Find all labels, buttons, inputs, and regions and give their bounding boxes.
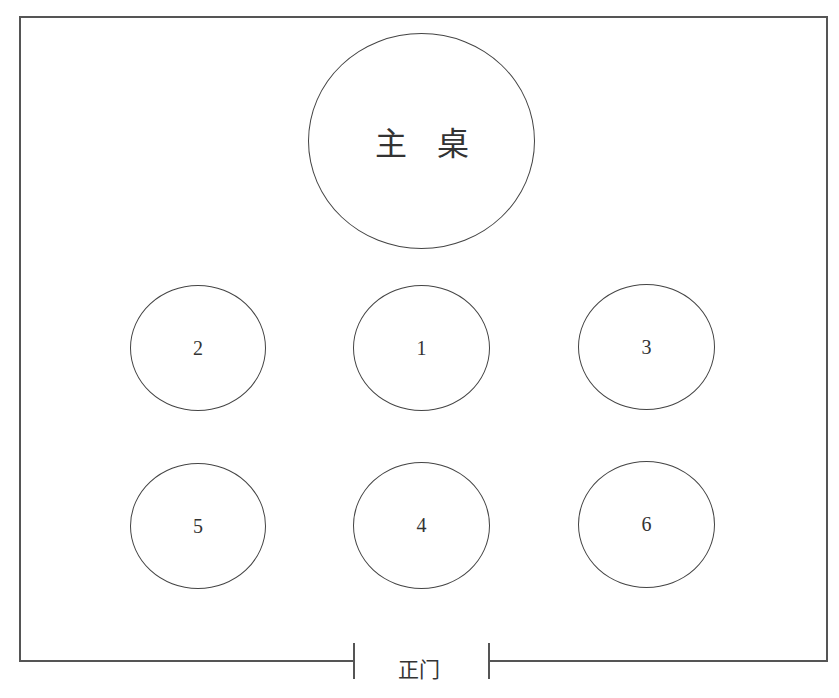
main-table: 主桌 bbox=[308, 33, 535, 249]
door-jamb-left bbox=[353, 643, 355, 679]
table-2: 2 bbox=[130, 285, 266, 411]
table-4: 4 bbox=[353, 462, 490, 589]
seating-diagram: 正门 主桌 2 1 3 5 4 6 bbox=[0, 0, 839, 698]
wall-top bbox=[19, 16, 828, 18]
wall-bottom-right bbox=[488, 660, 828, 662]
table-label: 2 bbox=[193, 337, 203, 360]
table-3: 3 bbox=[578, 284, 715, 410]
table-label: 4 bbox=[417, 514, 427, 537]
table-1: 1 bbox=[353, 285, 490, 411]
table-5: 5 bbox=[130, 463, 266, 589]
door-jamb-right bbox=[488, 643, 490, 679]
table-label: 1 bbox=[417, 337, 427, 360]
table-label: 3 bbox=[642, 336, 652, 359]
wall-right bbox=[826, 16, 828, 662]
wall-bottom-left bbox=[19, 660, 355, 662]
table-label: 5 bbox=[193, 515, 203, 538]
entrance-label: 正门 bbox=[398, 653, 440, 683]
table-label: 6 bbox=[642, 513, 652, 536]
wall-left bbox=[19, 16, 21, 662]
main-table-label: 主桌 bbox=[375, 118, 499, 164]
table-6: 6 bbox=[578, 461, 715, 588]
